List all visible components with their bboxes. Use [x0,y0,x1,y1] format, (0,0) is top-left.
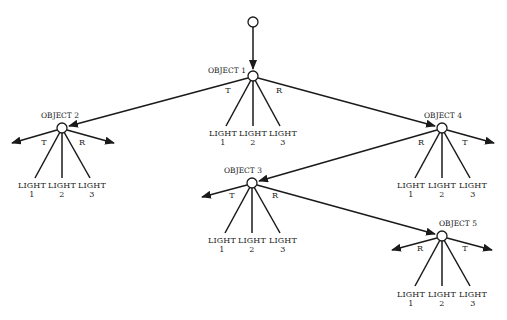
object-3-group: OBJECT 3 T R LIGHT 1 LIGHT 2 LIGHT 3 [202,166,435,254]
obj4-light1-label: LIGHT [397,181,426,190]
obj2-light1-num: 1 [29,190,34,199]
obj4-t-arrow [447,130,494,143]
obj4-light2-num: 2 [439,190,444,199]
obj2-light1-label: LIGHT [18,181,47,190]
obj5-light3-num: 3 [470,299,475,308]
obj4-light3-num: 3 [470,190,475,199]
obj5-light1-num: 1 [408,299,413,308]
obj2-light2-label: LIGHT [48,181,77,190]
object-5-label: OBJECT 5 [439,219,477,228]
object-4-label: OBJECT 4 [424,111,462,120]
obj2-t-label: T [41,138,47,147]
obj3-light2-label: LIGHT [238,236,267,245]
obj3-light1-num: 1 [219,245,224,254]
obj3-light1-label: LIGHT [208,236,237,245]
obj4-r-label: R [418,138,425,147]
ray-tree-diagram: OBJECT 1 T R LIGHT 1 LIGHT 2 LIGHT 3 OBJ… [0,0,507,320]
obj3-t-arrow [202,185,247,197]
root-ray [248,17,258,69]
object-4-node [437,123,447,133]
obj5-r-label: R [417,244,424,253]
obj3-light3-num: 3 [280,245,285,254]
obj3-light3-label: LIGHT [269,236,298,245]
obj1-t-label: T [225,86,231,95]
object-1-group: OBJECT 1 T R LIGHT 1 LIGHT 2 LIGHT 3 [69,66,435,147]
obj2-light3-num: 3 [89,190,94,199]
obj3-t-label: T [229,191,235,200]
obj3-r-label: R [272,191,279,200]
obj2-r-label: R [79,138,86,147]
obj5-r-arrow [392,238,437,250]
object-2-node [57,123,67,133]
object-3-node [247,178,257,188]
obj1-r-edge [258,78,435,126]
object-2-group: OBJECT 2 T R LIGHT 1 LIGHT 2 LIGHT 3 [12,111,114,199]
obj1-t-edge [69,78,248,126]
obj2-light3-label: LIGHT [78,181,107,190]
obj1-light2-num: 2 [250,138,255,147]
obj3-light2-num: 2 [249,245,254,254]
object-4-group: OBJECT 4 R T LIGHT 1 LIGHT 2 LIGHT 3 [259,111,494,199]
object-5-group: OBJECT 5 R T LIGHT 1 LIGHT 2 LIGHT 3 [392,219,492,308]
obj2-light3-edge [64,132,90,178]
obj5-light3-label: LIGHT [459,290,488,299]
obj1-light3-num: 3 [280,138,285,147]
obj2-r-arrow [67,130,114,143]
obj4-light2-label: LIGHT [428,181,457,190]
object-1-label: OBJECT 1 [208,66,246,75]
obj4-light3-label: LIGHT [459,181,488,190]
obj4-t-label: T [462,138,468,147]
obj5-light2-label: LIGHT [428,290,457,299]
obj5-t-arrow [447,238,492,250]
object-3-label: OBJECT 3 [224,166,262,175]
obj5-light2-num: 2 [439,299,444,308]
obj5-t-label: T [462,244,468,253]
root-node [248,17,258,27]
obj4-light1-num: 1 [408,190,413,199]
obj2-light2-num: 2 [59,190,64,199]
object-2-label: OBJECT 2 [41,111,79,120]
obj1-r-label: R [276,86,283,95]
obj5-light1-label: LIGHT [397,290,426,299]
obj1-light1-label: LIGHT [209,129,238,138]
obj1-light3-label: LIGHT [269,129,298,138]
obj2-t-arrow [12,130,57,143]
obj1-light2-label: LIGHT [239,129,268,138]
obj2-light1-edge [35,132,60,178]
obj1-light1-num: 1 [220,138,225,147]
object-1-node [248,71,258,81]
object-5-node [437,231,447,241]
